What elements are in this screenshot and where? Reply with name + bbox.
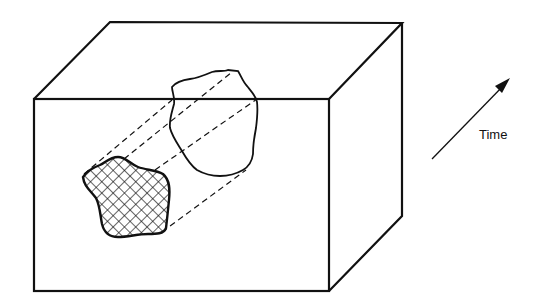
- box-front-face: [34, 99, 329, 291]
- time-arrow-head-icon: [495, 78, 510, 93]
- projection-line-4: [162, 170, 246, 232]
- box-right-face: [329, 23, 402, 291]
- time-arrow-shaft: [432, 85, 504, 159]
- back-region-outline: [170, 70, 258, 176]
- time-label: Time: [479, 127, 507, 142]
- time-arrow: [432, 78, 510, 159]
- box: [34, 22, 402, 291]
- space-time-box-diagram: [0, 0, 541, 307]
- box-top-face: [34, 22, 402, 99]
- projection-line-3: [155, 99, 257, 170]
